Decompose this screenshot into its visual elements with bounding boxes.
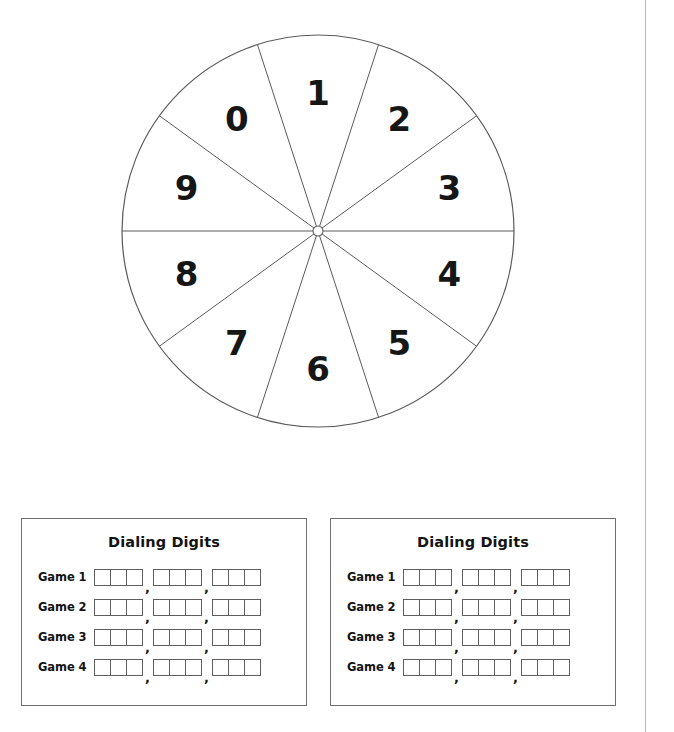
digit-cell[interactable] xyxy=(537,599,554,616)
digit-cell[interactable] xyxy=(553,599,570,616)
game-label: Game 2 xyxy=(347,601,403,613)
group-separator: , xyxy=(452,611,462,624)
digit-cell[interactable] xyxy=(244,629,261,646)
digit-cell[interactable] xyxy=(478,599,495,616)
digit-cell[interactable] xyxy=(553,569,570,586)
digit-cell[interactable] xyxy=(521,659,538,676)
spinner-digit-3: 3 xyxy=(438,171,462,205)
digit-cell[interactable] xyxy=(228,599,245,616)
digit-cell[interactable] xyxy=(153,569,170,586)
digit-cell[interactable] xyxy=(244,599,261,616)
digit-cell[interactable] xyxy=(403,659,420,676)
digit-cell[interactable] xyxy=(110,659,127,676)
group-separator: , xyxy=(452,581,462,594)
digit-cell[interactable] xyxy=(212,569,229,586)
game-row: Game 3,, xyxy=(331,622,615,652)
digit-cell[interactable] xyxy=(212,629,229,646)
digit-group xyxy=(521,599,570,616)
digit-cell[interactable] xyxy=(419,569,436,586)
digit-cell[interactable] xyxy=(435,569,452,586)
digit-cell[interactable] xyxy=(110,599,127,616)
digit-cell[interactable] xyxy=(126,629,143,646)
panel-title: Dialing Digits xyxy=(331,534,615,550)
spinner-digit-5: 5 xyxy=(387,326,411,360)
digit-cell[interactable] xyxy=(94,569,111,586)
digit-cell[interactable] xyxy=(537,569,554,586)
digit-cell[interactable] xyxy=(521,569,538,586)
digit-cell[interactable] xyxy=(462,569,479,586)
digit-group xyxy=(153,659,202,676)
group-separator: , xyxy=(202,641,212,654)
digit-cell[interactable] xyxy=(185,629,202,646)
spinner-hub xyxy=(313,226,323,236)
digit-cell[interactable] xyxy=(537,659,554,676)
digit-cell[interactable] xyxy=(110,569,127,586)
game-row: Game 2,, xyxy=(331,592,615,622)
digit-cell[interactable] xyxy=(521,599,538,616)
digit-cell[interactable] xyxy=(169,569,186,586)
digit-cell[interactable] xyxy=(153,599,170,616)
digit-group xyxy=(462,569,511,586)
digit-cell[interactable] xyxy=(185,569,202,586)
digit-cell[interactable] xyxy=(153,659,170,676)
digit-cell[interactable] xyxy=(494,599,511,616)
digit-cell[interactable] xyxy=(94,599,111,616)
digit-cell[interactable] xyxy=(153,629,170,646)
spinner-digit-0: 0 xyxy=(225,102,249,136)
digit-cell[interactable] xyxy=(419,659,436,676)
digit-cell[interactable] xyxy=(478,569,495,586)
group-separator: , xyxy=(202,671,212,684)
digit-cell[interactable] xyxy=(212,659,229,676)
digit-cell[interactable] xyxy=(494,569,511,586)
digit-cell[interactable] xyxy=(494,659,511,676)
digit-cell[interactable] xyxy=(212,599,229,616)
game-row: Game 1,, xyxy=(22,562,306,592)
spinner-digit-1: 1 xyxy=(306,76,330,110)
digit-cell[interactable] xyxy=(169,599,186,616)
digit-cell[interactable] xyxy=(185,659,202,676)
digit-cell[interactable] xyxy=(419,629,436,646)
group-separator: , xyxy=(202,611,212,624)
digit-cell[interactable] xyxy=(244,659,261,676)
digit-cell[interactable] xyxy=(462,629,479,646)
digit-cell[interactable] xyxy=(462,599,479,616)
digit-cell[interactable] xyxy=(228,629,245,646)
digit-cell[interactable] xyxy=(403,569,420,586)
digit-cell[interactable] xyxy=(244,569,261,586)
digit-group xyxy=(153,599,202,616)
spinner-digit-8: 8 xyxy=(175,257,199,291)
digit-cell[interactable] xyxy=(435,629,452,646)
digit-cell[interactable] xyxy=(94,629,111,646)
digit-cell[interactable] xyxy=(228,659,245,676)
digit-cell[interactable] xyxy=(521,629,538,646)
game-row: Game 3,, xyxy=(22,622,306,652)
game-row: Game 4,, xyxy=(331,652,615,682)
spinner-digit-6: 6 xyxy=(306,352,330,386)
digit-cell[interactable] xyxy=(110,629,127,646)
digit-cell[interactable] xyxy=(553,629,570,646)
game-row: Game 2,, xyxy=(22,592,306,622)
digit-cell[interactable] xyxy=(435,659,452,676)
digit-cell[interactable] xyxy=(419,599,436,616)
digit-cell[interactable] xyxy=(403,599,420,616)
digit-cell[interactable] xyxy=(435,599,452,616)
digit-cell[interactable] xyxy=(126,569,143,586)
digit-cell[interactable] xyxy=(478,629,495,646)
digit-cell[interactable] xyxy=(537,629,554,646)
digit-cell[interactable] xyxy=(553,659,570,676)
digit-cell[interactable] xyxy=(169,659,186,676)
digit-cell[interactable] xyxy=(494,629,511,646)
digit-group xyxy=(521,569,570,586)
digit-cell[interactable] xyxy=(94,659,111,676)
digit-cell[interactable] xyxy=(462,659,479,676)
group-separator: , xyxy=(143,611,153,624)
digit-cell[interactable] xyxy=(185,599,202,616)
digit-cell[interactable] xyxy=(126,659,143,676)
digit-cell[interactable] xyxy=(478,659,495,676)
digit-cell[interactable] xyxy=(228,569,245,586)
spinner-digit-4: 4 xyxy=(438,257,462,291)
digit-cell[interactable] xyxy=(403,629,420,646)
digit-cell[interactable] xyxy=(126,599,143,616)
digit-cell[interactable] xyxy=(169,629,186,646)
digit-spinner[interactable]: 1234567890 xyxy=(120,33,516,429)
